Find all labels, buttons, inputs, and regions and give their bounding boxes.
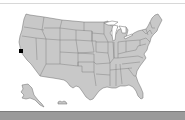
location-marker[interactable]: [19, 49, 23, 53]
alaska-shape: [21, 84, 44, 107]
us-map[interactable]: [0, 0, 185, 120]
hawaii-shape: [58, 101, 67, 104]
bottom-bar: [0, 111, 185, 120]
